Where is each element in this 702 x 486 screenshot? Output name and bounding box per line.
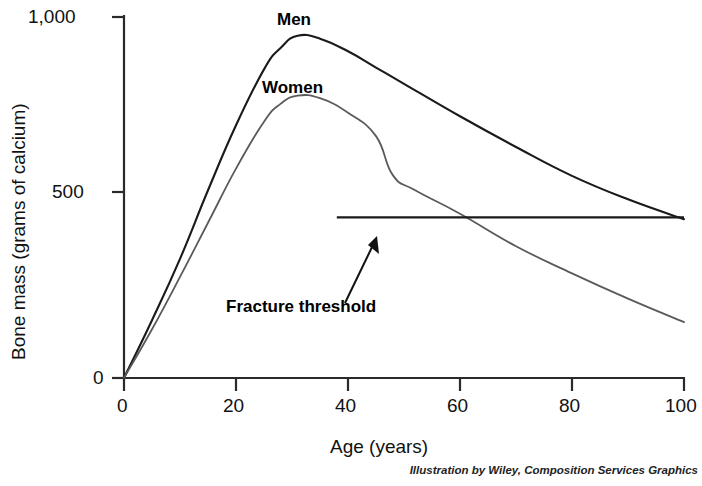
x-tick-label-100: 100 bbox=[665, 395, 697, 417]
x-axis-title: Age (years) bbox=[330, 436, 428, 458]
y-tick-label-0: 0 bbox=[93, 367, 104, 389]
series-line-women bbox=[124, 95, 684, 378]
series-line-men bbox=[124, 35, 684, 378]
x-tick-label-40: 40 bbox=[335, 395, 356, 417]
fracture-threshold-label: Fracture threshold bbox=[226, 297, 376, 317]
bone-mass-chart: 1,000 500 0 0 20 40 60 80 100 Bone mass … bbox=[0, 0, 702, 486]
series-label-women: Women bbox=[262, 78, 323, 98]
x-tick-label-60: 60 bbox=[447, 395, 468, 417]
x-tick-label-0: 0 bbox=[117, 395, 128, 417]
series-label-men: Men bbox=[277, 10, 311, 30]
x-tick-label-80: 80 bbox=[559, 395, 580, 417]
illustration-credit: Illustration by Wiley, Composition Servi… bbox=[410, 464, 698, 476]
y-axis-title: Bone mass (grams of calcium) bbox=[8, 103, 30, 360]
y-tick-label-500: 500 bbox=[52, 181, 84, 203]
x-tick-label-20: 20 bbox=[223, 395, 244, 417]
y-tick-label-1000: 1,000 bbox=[28, 6, 76, 28]
fracture-threshold-arrow bbox=[345, 236, 379, 303]
